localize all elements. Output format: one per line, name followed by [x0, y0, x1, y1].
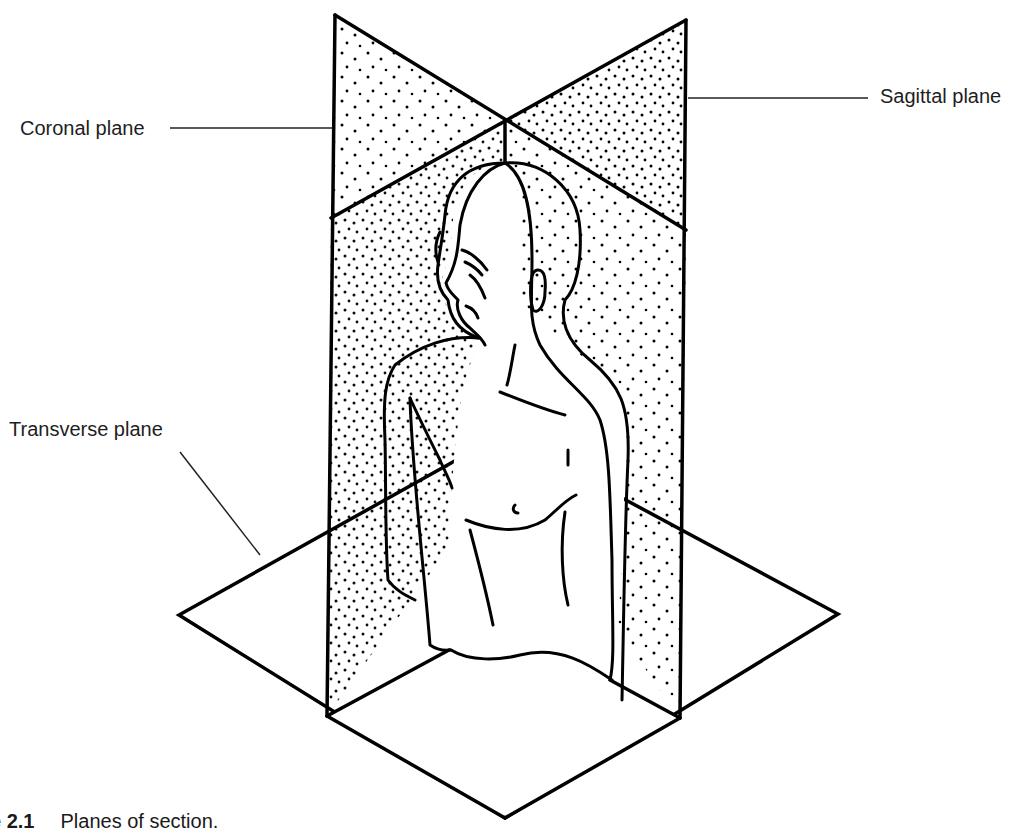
coronal-plane-label: Coronal plane	[20, 117, 145, 140]
transverse-plane-label: Transverse plane	[9, 418, 163, 441]
figure-number: e 2.1	[0, 810, 34, 832]
caption-text: Planes of section.	[60, 810, 218, 832]
sagittal-plane-label: Sagittal plane	[880, 85, 1001, 108]
figure-caption: e 2.1Planes of section.	[0, 810, 218, 833]
